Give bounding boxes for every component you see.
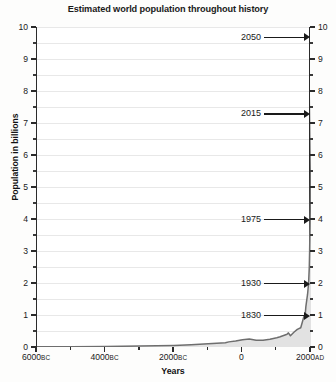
annotation-2050: 2050 (264, 32, 310, 44)
y-tick-minor-right (310, 170, 313, 171)
y-tick-right (310, 218, 315, 219)
y-tick-label-left: 9 (23, 55, 28, 64)
y-tick-label-right: 3 (318, 247, 323, 256)
y-tick-right (310, 122, 315, 123)
x-tick-minor (172, 347, 173, 350)
x-tick-era: BC (110, 354, 119, 361)
y-tick-label-left: 2 (23, 279, 28, 288)
y-tick-left (31, 218, 36, 219)
x-tick-era: BC (41, 354, 50, 361)
population-chart: Estimated world population throughout hi… (0, 0, 336, 382)
y-tick-right (310, 314, 315, 315)
x-tick-label: 6000BC (22, 352, 50, 362)
annotation-arrow (264, 113, 304, 114)
y-tick-label-left: 5 (23, 183, 28, 192)
y-tick-left (31, 282, 36, 283)
y-tick-label-left: 3 (23, 247, 28, 256)
y-tick-minor-right (310, 202, 313, 203)
y-axis-title: Population in billions (10, 97, 20, 217)
y-tick-label-left: 1 (23, 311, 28, 320)
y-tick-label-left: 10 (18, 23, 28, 32)
y-tick-minor-left (33, 138, 36, 139)
y-tick-left (31, 250, 36, 251)
y-tick-minor-left (33, 330, 36, 331)
annotation-label: 1830 (241, 309, 261, 321)
annotation-1930: 1930 (264, 278, 310, 290)
y-tick-label-left: 8 (23, 87, 28, 96)
y-tick-right (310, 346, 315, 347)
y-tick-label-right: 2 (318, 279, 323, 288)
annotation-1975: 1975 (264, 214, 310, 226)
x-tick-minor (241, 347, 242, 350)
x-tick-era: AD (315, 354, 324, 361)
y-tick-minor-left (33, 42, 36, 43)
population-curve (37, 27, 311, 347)
x-tick-label: 2000AD (296, 352, 324, 362)
annotation-arrowhead (304, 216, 310, 224)
y-tick-left (31, 154, 36, 155)
y-tick-minor-right (310, 106, 313, 107)
y-tick-label-right: 4 (318, 215, 323, 224)
y-tick-left (31, 186, 36, 187)
y-tick-minor-left (33, 266, 36, 267)
y-tick-label-right: 10 (318, 23, 328, 32)
y-tick-right (310, 250, 315, 251)
y-tick-label-left: 4 (23, 215, 28, 224)
y-tick-label-right: 8 (318, 87, 323, 96)
y-tick-left (31, 26, 36, 27)
y-tick-minor-right (310, 74, 313, 75)
y-tick-right (310, 58, 315, 59)
y-tick-left (31, 58, 36, 59)
y-tick-right (310, 154, 315, 155)
chart-title: Estimated world population throughout hi… (0, 4, 336, 14)
annotation-label: 1975 (241, 213, 261, 225)
annotation-arrow (264, 37, 304, 38)
annotation-2015: 2015 (264, 108, 310, 120)
y-tick-label-right: 5 (318, 183, 323, 192)
x-tick-label: 0 (239, 352, 244, 362)
x-tick-minor (70, 347, 71, 350)
y-tick-minor-left (33, 106, 36, 107)
y-tick-minor-right (310, 298, 313, 299)
annotation-arrowhead (304, 312, 310, 320)
x-tick-label: 4000BC (90, 352, 118, 362)
annotation-arrow (264, 219, 304, 220)
y-tick-minor-right (310, 266, 313, 267)
y-tick-minor-right (310, 330, 313, 331)
curve-line (37, 37, 311, 347)
y-tick-left (31, 314, 36, 315)
y-tick-label-right: 9 (318, 55, 323, 64)
y-tick-right (310, 26, 315, 27)
annotation-label: 2015 (241, 107, 261, 119)
y-tick-minor-right (310, 42, 313, 43)
y-tick-minor-left (33, 298, 36, 299)
annotation-arrow (264, 315, 304, 316)
annotation-arrowhead (304, 33, 310, 41)
y-tick-right (310, 282, 315, 283)
area-fill (37, 37, 311, 347)
y-tick-minor-right (310, 138, 313, 139)
y-tick-label-right: 7 (318, 119, 323, 128)
y-tick-left (31, 90, 36, 91)
plot-area (36, 27, 310, 347)
y-tick-right (310, 90, 315, 91)
x-tick-label: 2000BC (159, 352, 187, 362)
annotation-1830: 1830 (264, 310, 310, 322)
y-tick-label-right: 1 (318, 311, 323, 320)
y-tick-left (31, 122, 36, 123)
annotation-label: 2050 (241, 31, 261, 43)
y-tick-label-left: 6 (23, 151, 28, 160)
x-tick-era: BC (178, 354, 187, 361)
y-tick-minor-left (33, 170, 36, 171)
x-tick-minor (138, 347, 139, 350)
y-tick-right (310, 186, 315, 187)
annotation-label: 1930 (241, 277, 261, 289)
x-tick-minor (207, 347, 208, 350)
annotation-arrow (264, 283, 304, 284)
y-tick-label-right: 6 (318, 151, 323, 160)
annotation-arrowhead (304, 280, 310, 288)
x-tick-minor (275, 347, 276, 350)
y-tick-label-right: 0 (318, 343, 323, 352)
annotation-arrowhead (304, 110, 310, 118)
x-tick-minor (104, 347, 105, 350)
